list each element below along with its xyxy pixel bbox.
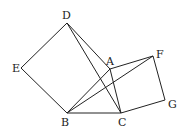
- segment-AC: [110, 69, 121, 113]
- geometry-diagram: D E A F G B C: [0, 0, 187, 135]
- point-label-g: G: [168, 99, 177, 110]
- segment-BA: [67, 69, 110, 113]
- point-label-a: A: [106, 56, 114, 67]
- segment-AF: [110, 56, 153, 69]
- segment-FG: [153, 56, 165, 100]
- segment-DA: [67, 23, 110, 69]
- segment-EB: [21, 68, 67, 113]
- point-label-c: C: [118, 117, 126, 128]
- point-label-d: D: [62, 10, 71, 21]
- segment-GC: [121, 100, 165, 113]
- point-label-b: B: [61, 117, 69, 128]
- point-label-e: E: [12, 63, 20, 74]
- diagram-lines: [0, 0, 187, 135]
- segment-DE: [21, 23, 67, 68]
- point-label-f: F: [156, 49, 164, 60]
